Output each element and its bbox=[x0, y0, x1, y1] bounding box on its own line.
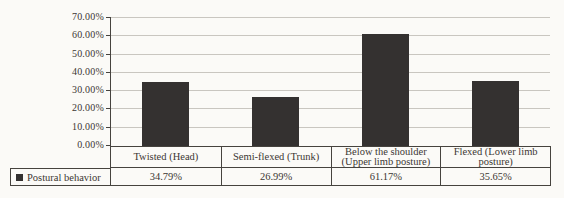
gridline bbox=[110, 72, 550, 73]
y-axis-tick-label: 50.00% bbox=[40, 48, 104, 60]
bar-2 bbox=[252, 97, 299, 146]
legend-key-icon bbox=[16, 174, 23, 181]
value-cell-4: 35.65% bbox=[440, 168, 550, 185]
bar-1 bbox=[142, 82, 189, 146]
value-cell-1: 34.79% bbox=[111, 168, 221, 185]
y-axis-tick-label: 60.00% bbox=[40, 29, 104, 41]
y-axis-line bbox=[110, 17, 111, 146]
bar-chart-figure: 70.00%60.00%50.00%40.00%30.00%20.00%10.0… bbox=[0, 0, 564, 198]
value-cell-2: 26.99% bbox=[221, 168, 331, 185]
gridline bbox=[110, 35, 550, 36]
y-axis-tick-label: 10.00% bbox=[40, 121, 104, 133]
y-axis-tick-label: 30.00% bbox=[40, 84, 104, 96]
category-header-cell-4: Flexed (Lower limb posture) bbox=[440, 147, 550, 168]
gridline bbox=[110, 54, 550, 55]
category-header-cell-2: Semi-flexed (Trunk) bbox=[221, 147, 331, 168]
data-table: Twisted (Head)Semi-flexed (Trunk)Below t… bbox=[110, 146, 551, 186]
y-axis-tick-label: 0.00% bbox=[40, 139, 104, 151]
y-axis-tick-label: 20.00% bbox=[40, 102, 104, 114]
bar-4 bbox=[472, 81, 519, 146]
legend-table-cell: Postural behavior bbox=[10, 168, 111, 186]
y-axis-tick-label: 70.00% bbox=[40, 11, 104, 23]
gridline bbox=[110, 17, 550, 18]
category-header-cell-1: Twisted (Head) bbox=[111, 147, 221, 168]
category-header-cell-3: Below the shoulder (Upper limb posture) bbox=[331, 147, 441, 168]
value-cell-3: 61.17% bbox=[331, 168, 441, 185]
legend-series-label: Postural behavior bbox=[27, 172, 101, 183]
y-axis-tick-label: 40.00% bbox=[40, 66, 104, 78]
bar-3 bbox=[362, 34, 409, 146]
